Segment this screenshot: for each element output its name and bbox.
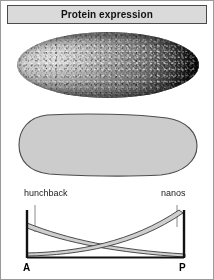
protein-expression-figure: Protein expression hunchback nanos [0, 0, 214, 280]
embryo-micrograph-panel [7, 29, 207, 103]
nanos-label: nanos [161, 188, 186, 198]
figure-title-bar: Protein expression [7, 5, 207, 24]
embryo-outline-shape [19, 114, 197, 176]
drosophila-embryo-schematic [17, 113, 199, 177]
micrograph-rim-shadow [17, 32, 199, 98]
anterior-axis-label: A [23, 262, 30, 273]
embryo-schematic-panel [7, 107, 207, 183]
gradient-chart-panel: hunchback nanos A P [7, 183, 207, 275]
drosophila-embryo-micrograph [17, 32, 199, 98]
posterior-axis-label: P [179, 262, 186, 273]
figure-title: Protein expression [61, 10, 153, 20]
protein-gradient-chart: hunchback nanos A P [7, 183, 207, 275]
hunchback-label: hunchback [24, 188, 68, 198]
